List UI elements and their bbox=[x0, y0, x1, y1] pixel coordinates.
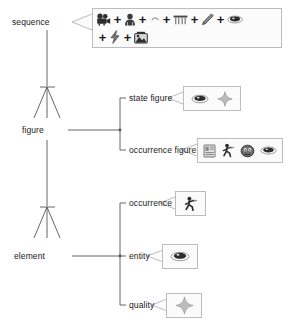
callout-sequence: + + + bbox=[92, 8, 282, 48]
sparkle-star-icon bbox=[217, 91, 233, 107]
plus-operator-icon: + bbox=[160, 13, 173, 26]
small-curve-mark-icon bbox=[149, 15, 160, 23]
callout-state-figure bbox=[183, 86, 241, 111]
pencil-icon bbox=[201, 13, 214, 26]
person-running-icon bbox=[221, 143, 236, 158]
plus-operator-icon: + bbox=[121, 31, 134, 44]
eye-disc-icon bbox=[227, 14, 243, 25]
plus-operator-icon: + bbox=[96, 31, 109, 44]
callout-entity bbox=[162, 244, 198, 269]
branch-label-quality: quality bbox=[129, 300, 154, 310]
eye-disc-icon bbox=[170, 250, 190, 263]
branch-label-state-figure: state figure bbox=[129, 93, 172, 103]
plus-operator-icon: + bbox=[111, 13, 124, 26]
callout-quality bbox=[166, 293, 202, 318]
branch-label-occurrence: occurrence bbox=[129, 198, 172, 208]
plus-operator-icon: + bbox=[136, 13, 149, 26]
node-label-figure: figure bbox=[22, 125, 44, 135]
lightning-bolt-icon bbox=[109, 30, 121, 44]
branch-label-occurrence-figure: occurrence figure bbox=[129, 145, 196, 155]
diagram-canvas: sequence figure element state figure occ… bbox=[0, 0, 290, 330]
person-icon bbox=[124, 13, 136, 26]
branch-label-entity: entity bbox=[129, 251, 150, 261]
plus-operator-icon: + bbox=[214, 13, 227, 26]
plus-operator-icon: + bbox=[188, 13, 201, 26]
callout-occurrence bbox=[175, 191, 206, 216]
photo-stack-icon bbox=[134, 31, 148, 44]
eye-disc-icon bbox=[260, 145, 277, 156]
callout-occurrence-figure bbox=[197, 138, 283, 163]
person-running-icon bbox=[183, 196, 199, 212]
bench-table-icon bbox=[173, 13, 188, 25]
movie-camera-icon bbox=[96, 13, 111, 26]
face-icon bbox=[240, 144, 255, 158]
photo-frame-icon bbox=[203, 144, 216, 158]
node-label-sequence: sequence bbox=[12, 17, 50, 27]
connector-lines bbox=[0, 0, 290, 330]
sparkle-star-icon bbox=[175, 296, 194, 315]
eye-disc-icon bbox=[191, 93, 209, 105]
node-label-element: element bbox=[14, 251, 45, 261]
